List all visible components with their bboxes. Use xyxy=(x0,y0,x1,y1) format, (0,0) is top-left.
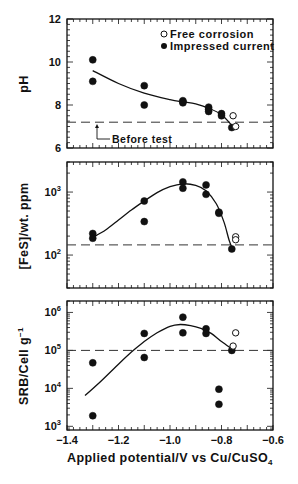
data-point-impressed-current xyxy=(141,330,148,337)
fes-axis-title: [FeS]/wt. ppm xyxy=(17,182,31,269)
data-point-impressed-current xyxy=(141,198,148,205)
y-tick-label: 103 xyxy=(45,418,61,432)
panel-bottom: 103104105106−1.4−1.2−1.0−0.8−0.6 xyxy=(45,301,284,446)
data-point-impressed-current xyxy=(203,330,210,337)
data-point-impressed-current xyxy=(205,108,212,115)
panel-middle: 102103 xyxy=(45,162,273,288)
data-point-impressed-current xyxy=(89,235,96,242)
data-point-impressed-current xyxy=(89,56,96,63)
data-point-free-corrosion xyxy=(230,343,236,349)
srb-axis-title: SRB/Cell g−1 xyxy=(16,327,31,405)
data-point-impressed-current xyxy=(179,329,186,336)
data-point-impressed-current xyxy=(141,218,148,225)
data-point-impressed-current xyxy=(179,185,186,192)
data-point-impressed-current xyxy=(179,99,186,106)
legend-open-circle-icon xyxy=(161,31,167,37)
x-axis-title-main: Applied potential/V vs Cu/CuSO xyxy=(67,451,268,465)
before-test-label: Before test xyxy=(112,133,172,145)
data-point-impressed-current xyxy=(203,191,210,198)
data-point-free-corrosion xyxy=(232,330,238,336)
arrow-up-icon xyxy=(95,124,99,128)
y-tick-label: 104 xyxy=(45,380,62,394)
x-tick-label: −0.6 xyxy=(262,434,284,446)
data-point-impressed-current xyxy=(141,82,148,89)
srb-axis-title-superscript: −1 xyxy=(16,327,25,337)
data-point-impressed-current xyxy=(215,210,222,217)
data-point-impressed-current xyxy=(179,314,186,321)
data-point-free-corrosion xyxy=(232,123,238,129)
ph-axis-title: pH xyxy=(17,75,31,92)
chart-panels: 681012102103103104105106−1.4−1.2−1.0−0.8… xyxy=(45,13,284,446)
data-point-impressed-current xyxy=(228,245,235,252)
fit-curve xyxy=(93,184,233,250)
y-tick-label: 10 xyxy=(49,56,61,68)
legend-filled-circle-icon xyxy=(161,43,167,49)
data-point-impressed-current xyxy=(179,178,186,185)
x-tick-label: −0.8 xyxy=(211,434,233,446)
y-tick-label: 106 xyxy=(45,304,61,318)
data-point-impressed-current xyxy=(89,412,96,419)
legend-impressed-current: Impressed current xyxy=(170,40,274,52)
x-axis-title: Applied potential/V vs Cu/CuSO4 xyxy=(67,451,273,467)
data-point-impressed-current xyxy=(203,181,210,188)
srb-axis-title-main: SRB/Cell g xyxy=(17,337,31,405)
x-axis-title-subscript: 4 xyxy=(268,458,273,467)
y-tick-label: 12 xyxy=(49,13,61,25)
data-point-free-corrosion xyxy=(232,237,238,243)
x-tick-label: −1.4 xyxy=(56,434,79,446)
before-test-annotation: Before test xyxy=(95,124,172,145)
plot-frame xyxy=(67,162,273,288)
plot-frame xyxy=(67,301,273,430)
data-point-free-corrosion xyxy=(230,113,236,119)
legend: Free corrosion Impressed current xyxy=(161,28,274,52)
fit-curve xyxy=(93,71,232,126)
legend-free-corrosion: Free corrosion xyxy=(170,28,254,40)
y-tick-label: 8 xyxy=(55,99,61,111)
data-point-impressed-current xyxy=(215,386,222,393)
data-point-impressed-current xyxy=(141,102,148,109)
data-point-impressed-current xyxy=(89,78,96,85)
data-point-impressed-current xyxy=(89,359,96,366)
data-point-impressed-current xyxy=(215,401,222,408)
data-point-impressed-current xyxy=(218,112,225,119)
x-tick-label: −1.2 xyxy=(108,434,130,446)
y-tick-label: 102 xyxy=(45,247,61,261)
fit-curve xyxy=(85,324,232,395)
y-tick-label: 6 xyxy=(55,142,61,154)
y-tick-label: 105 xyxy=(45,342,61,356)
y-tick-label: 103 xyxy=(45,184,61,198)
x-tick-label: −1.0 xyxy=(159,434,181,446)
figure: 681012102103103104105106−1.4−1.2−1.0−0.8… xyxy=(0,0,298,484)
data-point-impressed-current xyxy=(141,354,148,361)
